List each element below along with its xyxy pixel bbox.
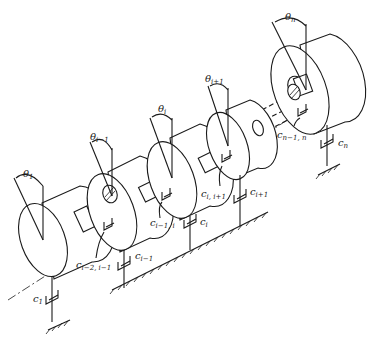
label-c-i-minus-1: ci−1 [135, 250, 153, 263]
label-theta-1: θ1 [23, 168, 34, 181]
ground-disk-n [316, 164, 340, 179]
label-c-n: cn [338, 137, 349, 150]
label-c-i-plus-1: ci+1 [250, 186, 268, 199]
label-theta-n: θn [285, 11, 296, 24]
label-c-i: ci [200, 216, 208, 229]
ground-disk-1 [46, 320, 70, 334]
torsional-system-diagram: θ1 c1 θi−1 ci−1 ci−2, i−1 [0, 0, 369, 342]
label-theta-i-plus-1: θi+1 [205, 73, 224, 86]
label-c-1: c1 [33, 293, 43, 306]
